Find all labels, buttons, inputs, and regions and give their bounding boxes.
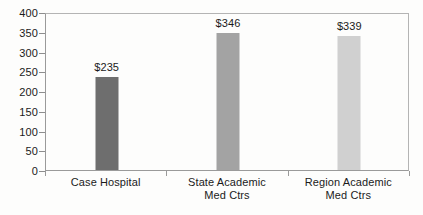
x-axis-tick-mark	[166, 171, 167, 176]
y-axis-tick-label: 250	[0, 67, 38, 78]
y-axis-tick-label: 300	[0, 47, 38, 58]
x-axis-category-line: Med Ctrs	[288, 189, 409, 202]
bar-value-label: $339	[337, 21, 362, 32]
x-axis: Case HospitalState AcademicMed CtrsRegio…	[45, 176, 409, 214]
x-axis-tick-mark	[288, 171, 289, 176]
y-axis-tick-label: 50	[0, 146, 38, 157]
bar[interactable]	[338, 36, 361, 170]
y-axis-tick-label: 0	[0, 166, 38, 177]
bar-chart: 050100150200250300350400 $235$346$339 Ca…	[0, 0, 423, 215]
y-axis-tick-mark	[39, 53, 45, 54]
x-axis-tick-mark	[45, 171, 46, 176]
x-axis-category-line: Med Ctrs	[166, 189, 287, 202]
y-axis-tick-mark	[39, 13, 45, 14]
plot-area: $235$346$339	[45, 13, 409, 171]
x-axis-category-line: Case Hospital	[45, 176, 166, 189]
bar-group: $235	[46, 14, 167, 170]
bar-value-label: $235	[94, 62, 119, 73]
y-axis-tick-mark	[39, 92, 45, 93]
bar-group: $346	[167, 14, 288, 170]
bar[interactable]	[95, 77, 118, 170]
x-axis-category-label: State AcademicMed Ctrs	[166, 176, 287, 202]
y-axis-tick-label: 200	[0, 87, 38, 98]
y-axis-tick-label: 150	[0, 106, 38, 117]
y-axis-tick-label: 100	[0, 126, 38, 137]
x-axis-category-line: Region Academic	[288, 176, 409, 189]
y-axis-tick-label: 400	[0, 8, 38, 19]
bar[interactable]	[216, 33, 239, 170]
x-axis-category-label: Case Hospital	[45, 176, 166, 189]
y-axis: 050100150200250300350400	[0, 13, 38, 171]
y-axis-tick-label: 350	[0, 27, 38, 38]
bar-value-label: $346	[216, 18, 241, 29]
bar-group: $339	[289, 14, 410, 170]
y-axis-tick-mark	[39, 33, 45, 34]
y-axis-tick-mark	[39, 151, 45, 152]
y-axis-tick-mark	[39, 112, 45, 113]
y-axis-tick-mark	[39, 132, 45, 133]
x-axis-category-label: Region AcademicMed Ctrs	[288, 176, 409, 202]
y-axis-tick-mark	[39, 72, 45, 73]
x-axis-category-line: State Academic	[166, 176, 287, 189]
x-axis-tick-mark	[409, 171, 410, 176]
